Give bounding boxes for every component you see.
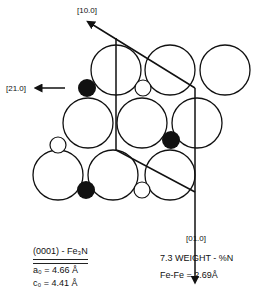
- large-atoms: [33, 45, 250, 200]
- direction-label-21-0: [21.0]: [6, 84, 26, 93]
- caption-fe-fe: Fe-Fe = 2.69Å: [160, 270, 218, 280]
- caption-weight: 7.3 WEIGHT - %N: [160, 253, 233, 263]
- caption-a0: a₀ = 4.66 Å: [33, 265, 78, 275]
- caption-underline: [33, 259, 88, 264]
- direction-label-01-0: [01.0]: [186, 234, 206, 243]
- caption-heading: (0001) - Fe₃N: [33, 246, 88, 256]
- nitrogen-atoms-black: [77, 79, 180, 199]
- direction-label-10-0: [10.0]: [77, 6, 97, 15]
- nitrogen-atoms-white: [50, 80, 151, 198]
- caption-c0: c₀ = 4.41 Å: [33, 278, 78, 288]
